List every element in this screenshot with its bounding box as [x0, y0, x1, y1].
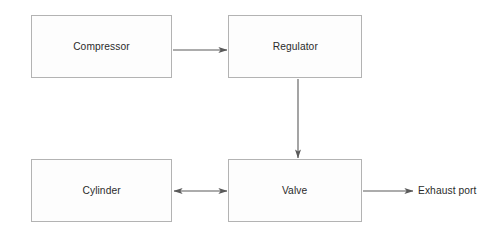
label-exhaust-port: Exhaust port — [418, 185, 477, 196]
node-valve-label: Valve — [282, 185, 307, 196]
node-cylinder[interactable]: Cylinder — [31, 159, 172, 222]
node-regulator-label: Regulator — [272, 41, 317, 52]
node-cylinder-label: Cylinder — [82, 185, 120, 196]
node-valve[interactable]: Valve — [228, 159, 362, 222]
diagram-canvas: Compressor Regulator Cylinder Valve Exha… — [0, 0, 499, 240]
node-regulator[interactable]: Regulator — [228, 15, 362, 78]
node-compressor-label: Compressor — [73, 41, 130, 52]
node-compressor[interactable]: Compressor — [31, 15, 172, 78]
